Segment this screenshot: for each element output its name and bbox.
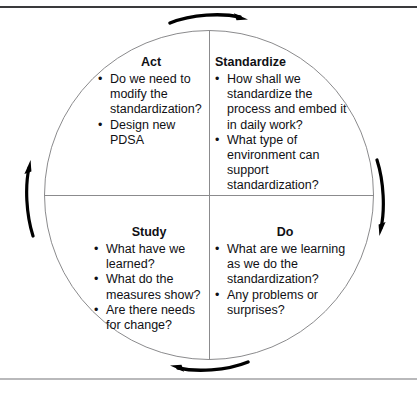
list-item-text: Are there needs for change? [106,303,195,332]
arrow-left-clockwise-icon [22,158,40,242]
list-item: • What do the measures show? [94,272,210,302]
bullet-icon: • [98,118,102,133]
list-item: • How shall we standardize the process a… [215,72,355,133]
bullet-icon: • [215,133,219,148]
quadrant-do: Do • What are we learning as we do the s… [215,225,355,318]
list-item-text: What are we learning as we do the standa… [227,242,345,286]
quadrant-do-list: • What are we learning as we do the stan… [215,242,355,318]
list-item-text: Any problems or surprises? [227,288,318,317]
list-item: • What have we learned? [94,242,210,272]
quadrant-act: Act • Do we need to modify the standardi… [92,55,210,148]
arrow-bottom-clockwise-icon [168,358,250,380]
quadrant-study: Study • What have we learned? • What do … [88,225,210,333]
quadrant-standardize-list: • How shall we standardize the process a… [215,72,355,194]
list-item: • Any problems or surprises? [215,288,355,318]
frame-top-rule [0,6,417,8]
quadrant-study-title: Study [88,225,210,240]
list-item-text: What type of environment can support sta… [227,133,319,193]
arrow-top-clockwise-icon [168,10,250,32]
bullet-icon: • [215,242,219,257]
list-item: • Do we need to modify the standardizati… [98,72,210,118]
bullet-icon: • [98,72,102,87]
list-item-text: What do the measures show? [106,272,201,301]
bullet-icon: • [94,303,98,318]
list-item-text: Do we need to modify the standardization… [110,72,202,116]
list-item-text: Design new PDSA [110,118,175,147]
bullet-icon: • [94,272,98,287]
quadrant-act-title: Act [92,55,210,70]
list-item: • Are there needs for change? [94,303,210,333]
quadrant-act-list: • Do we need to modify the standardizati… [92,72,210,148]
bullet-icon: • [215,288,219,303]
pdsa-cycle-diagram: Act • Do we need to modify the standardi… [0,0,417,393]
list-item-text: What have we learned? [106,242,185,271]
bullet-icon: • [215,72,219,87]
list-item: • What type of environment can support s… [215,133,355,194]
bullet-icon: • [94,242,98,257]
list-item: • What are we learning as we do the stan… [215,242,355,288]
quadrant-standardize-title: Standardize [215,55,355,70]
list-item-text: How shall we standardize the process and… [227,72,347,132]
list-item: • Design new PDSA [98,118,210,148]
quadrant-do-title: Do [215,225,355,240]
quadrant-study-list: • What have we learned? • What do the me… [88,242,210,333]
quadrant-standardize: Standardize • How shall we standardize t… [215,55,355,194]
